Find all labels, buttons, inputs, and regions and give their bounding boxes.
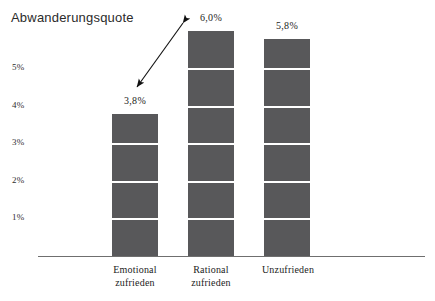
gridstripe-3pct: [38, 143, 425, 145]
ytick-label-4: 4%: [12, 100, 38, 110]
bar-emotional-zufrieden[interactable]: [112, 114, 158, 257]
category-label-rational-zufrieden: Rational zufrieden: [176, 263, 246, 289]
x-axis-line: [38, 256, 425, 257]
gridstripe-5pct: [38, 68, 425, 70]
gridstripe-1pct: [38, 218, 425, 220]
ytick-label-1: 1%: [12, 212, 38, 222]
category-label-unzufrieden: Unzufrieden: [250, 263, 326, 276]
category-label-line-1: Rational: [176, 263, 246, 276]
gridstripe-2pct: [38, 181, 425, 183]
category-label-line-2: zufrieden: [100, 276, 170, 289]
ytick-label-2: 2%: [12, 175, 38, 185]
gridstripe-4pct: [38, 106, 425, 108]
value-label-rational-zufrieden: 6,0%: [181, 12, 241, 23]
category-label-line-1: Emotional: [100, 263, 170, 276]
value-label-unzufrieden: 5,8%: [257, 20, 317, 31]
value-label-emotional-zufrieden: 3,8%: [105, 95, 165, 106]
ytick-label-5: 5%: [12, 62, 38, 72]
bar-unzufrieden[interactable]: [264, 39, 310, 257]
ytick-label-3: 3%: [12, 137, 38, 147]
category-label-emotional-zufrieden: Emotional zufrieden: [100, 263, 170, 289]
chart-title: Abwanderungsquote: [11, 10, 134, 25]
bar-chart: Abwanderungsquote 5% 4% 3% 2% 1% 3,8% 6,…: [0, 0, 435, 301]
category-label-line-2: zufrieden: [176, 276, 246, 289]
gap-arrow-line: [137, 23, 183, 87]
category-label-line-1: Unzufrieden: [250, 263, 326, 276]
